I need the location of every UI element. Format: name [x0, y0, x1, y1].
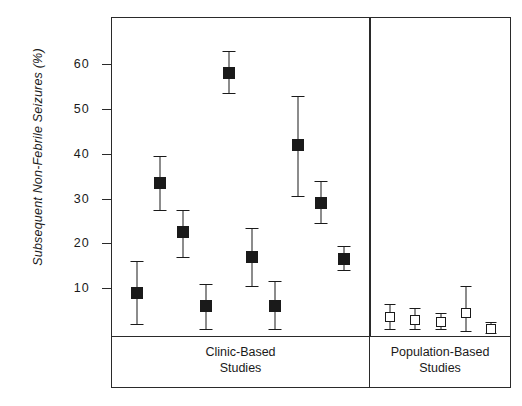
data-point	[479, 0, 503, 406]
data-point	[217, 0, 241, 406]
marker-filled-square	[131, 287, 143, 299]
data-point	[148, 0, 172, 406]
marker-filled-square	[292, 139, 304, 151]
data-point	[286, 0, 310, 406]
marker-filled-square	[246, 251, 258, 263]
error-bar-cap-lower	[154, 210, 167, 211]
error-bar-cap-upper	[385, 304, 396, 305]
data-layer	[0, 0, 522, 406]
chart-root: Subsequent Non-Febrile Seizures (%) 1020…	[0, 0, 522, 406]
error-bar-cap-lower	[246, 286, 259, 287]
error-bar-cap-upper	[410, 308, 421, 309]
error-bar-cap-lower	[410, 329, 421, 330]
error-bar-cap-upper	[435, 313, 446, 314]
error-bar-cap-upper	[223, 51, 236, 52]
error-bar-cap-upper	[154, 156, 167, 157]
error-bar-cap-lower	[177, 257, 190, 258]
y-axis-tick	[102, 109, 111, 110]
error-bar-cap-lower	[385, 329, 396, 330]
error-bar-cap-upper	[177, 210, 190, 211]
marker-open-square	[385, 312, 395, 322]
data-point	[378, 0, 402, 406]
error-bar-cap-upper	[292, 96, 305, 97]
data-point	[429, 0, 453, 406]
error-bar-cap-lower	[338, 270, 351, 271]
data-point	[403, 0, 427, 406]
marker-filled-square	[338, 253, 350, 265]
error-bar-cap-upper	[315, 181, 328, 182]
error-bar-cap-lower	[200, 329, 213, 330]
error-bar-cap-upper	[200, 284, 213, 285]
data-point	[332, 0, 356, 406]
y-axis-tick	[102, 288, 111, 289]
error-bar-cap-upper	[131, 261, 144, 262]
error-bar-cap-lower	[315, 223, 328, 224]
marker-filled-square	[223, 67, 235, 79]
data-point	[309, 0, 333, 406]
marker-open-square	[410, 315, 420, 325]
error-bar-cap-lower	[292, 196, 305, 197]
error-bar-cap-lower	[131, 324, 144, 325]
marker-open-square	[436, 317, 446, 327]
error-bar-cap-lower	[223, 93, 236, 94]
marker-open-square	[486, 324, 496, 334]
marker-filled-square	[154, 177, 166, 189]
error-bar-cap-lower	[269, 329, 282, 330]
y-axis-tick	[102, 64, 111, 65]
data-point	[240, 0, 264, 406]
error-bar-cap-upper	[269, 281, 282, 282]
marker-open-square	[461, 308, 471, 318]
y-axis-tick	[102, 154, 111, 155]
error-bar-cap-upper	[338, 246, 351, 247]
marker-filled-square	[315, 197, 327, 209]
marker-filled-square	[200, 300, 212, 312]
error-bar-cap-upper	[460, 286, 471, 287]
data-point	[454, 0, 478, 406]
data-point	[263, 0, 287, 406]
error-bar-cap-upper	[246, 228, 259, 229]
marker-filled-square	[269, 300, 281, 312]
y-axis-tick	[102, 199, 111, 200]
marker-filled-square	[177, 226, 189, 238]
error-bar-cap-lower	[460, 331, 471, 332]
error-bar-cap-lower	[435, 329, 446, 330]
data-point	[171, 0, 195, 406]
data-point	[194, 0, 218, 406]
data-point	[125, 0, 149, 406]
y-axis-tick	[102, 243, 111, 244]
